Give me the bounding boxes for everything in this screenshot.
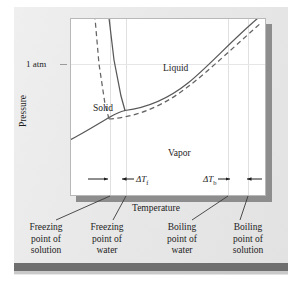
region-label-vapor: Vapor: [168, 148, 191, 158]
callout-line-2: point of: [150, 234, 214, 246]
delta-tf-label: ΔTf: [136, 174, 148, 186]
callout-line-3: water: [75, 245, 139, 257]
callout-line-2: point of: [75, 234, 139, 246]
callout-line-3: water: [150, 245, 214, 257]
callout-line-1: Freezing: [75, 222, 139, 234]
callout-line-2: point of: [216, 234, 280, 246]
callout-line-3: solution: [216, 245, 280, 257]
region-label-liquid: Liquid: [163, 63, 188, 73]
delta-tb-label: ΔTb: [203, 174, 217, 186]
callout-line-1: Boiling: [216, 222, 280, 234]
base-bar: [14, 263, 288, 271]
phase-diagram-figure: 1 atm Pressure Temperature Solid Liquid …: [0, 0, 302, 288]
base-bar-shadow: [14, 271, 288, 274]
callout-boiling-point-of-water: Boiling point of water: [150, 222, 214, 257]
delta-tf-symbol: ΔT: [136, 174, 146, 184]
callout-line-1: Boiling: [150, 222, 214, 234]
vertical-gridlines: [111, 18, 249, 196]
delta-tb-subscript: b: [213, 179, 216, 186]
delta-tf-subscript: f: [146, 179, 148, 186]
curve-water: [70, 18, 258, 140]
callout-boiling-point-of-solution: Boiling point of solution: [216, 222, 280, 257]
callout-line-2: point of: [14, 234, 78, 246]
y-tick-mark: [60, 64, 67, 65]
callout-freezing-point-of-water: Freezing point of water: [75, 222, 139, 257]
callout-line-3: solution: [14, 245, 78, 257]
delta-tb-symbol: ΔT: [203, 174, 213, 184]
y-tick-label: 1 atm: [26, 59, 46, 69]
water-sublimation-curve: [70, 111, 125, 141]
callout-freezing-point-of-solution: Freezing point of solution: [14, 222, 78, 257]
callout-line-1: Freezing: [14, 222, 78, 234]
region-label-solid: Solid: [93, 103, 113, 113]
y-axis-label: Pressure: [18, 71, 28, 151]
x-axis-label: Temperature: [132, 203, 180, 213]
